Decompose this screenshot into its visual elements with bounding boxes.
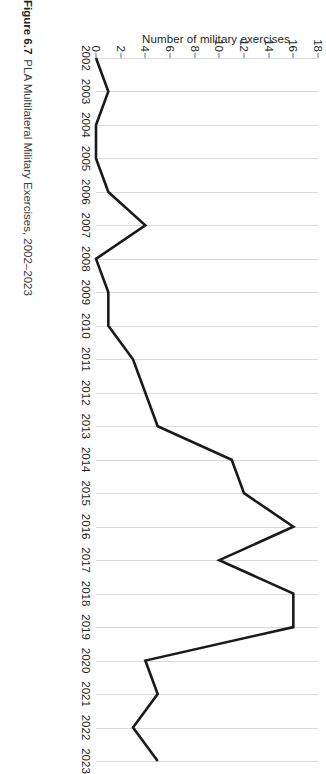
y-axis-tick-labels: 024681012141618 <box>96 34 318 58</box>
x-tick-label: 2005 <box>80 146 92 172</box>
x-tick-label: 2011 <box>80 347 92 372</box>
x-axis-tick-labels: 2002200320042005200620072008200920102011… <box>52 58 92 761</box>
x-tick-label: 2009 <box>80 280 92 306</box>
x-tick-label: 2013 <box>80 413 92 439</box>
x-tick-label: 2020 <box>80 648 92 674</box>
y-tick-label: 2 <box>115 46 127 52</box>
y-tick-label: 8 <box>189 46 201 52</box>
figure-caption: Figure 6.7PLA Multilateral Military Exer… <box>22 0 34 773</box>
y-tick-label: 16 <box>287 39 299 52</box>
gridline-2023 <box>96 761 318 762</box>
x-tick-label: 2022 <box>80 715 92 741</box>
x-tick-label: 2007 <box>80 213 92 239</box>
x-tick-label: 2016 <box>80 514 92 540</box>
y-tick-label: 18 <box>312 39 324 52</box>
x-tick-label: 2002 <box>80 45 92 71</box>
chart-plot-area: Number of military exercises 02468101214… <box>50 0 326 773</box>
x-tick-label: 2018 <box>80 581 92 607</box>
x-tick-label: 2017 <box>80 547 92 573</box>
y-tick-label: 14 <box>263 39 275 52</box>
line-series-exercises <box>96 58 293 761</box>
x-tick-label: 2008 <box>80 246 92 272</box>
y-tick-label: 4 <box>139 46 151 52</box>
x-tick-label: 2021 <box>80 681 92 707</box>
x-tick-label: 2010 <box>80 313 92 339</box>
data-series-line <box>96 58 318 761</box>
x-tick-label: 2003 <box>80 79 92 105</box>
figure-caption-text: PLA Multilateral Military Exercises, 200… <box>22 59 34 296</box>
x-tick-label: 2015 <box>80 480 92 506</box>
figure-caption-label: Figure 6.7 <box>22 0 34 54</box>
y-tick-label: 12 <box>238 39 250 52</box>
y-tick-label: 6 <box>164 46 176 52</box>
x-tick-label: 2012 <box>80 380 92 406</box>
y-tick-label: 10 <box>213 39 225 52</box>
x-tick-label: 2023 <box>80 748 92 774</box>
x-tick-label: 2019 <box>80 614 92 640</box>
x-tick-label: 2004 <box>80 112 92 138</box>
x-tick-label: 2014 <box>80 447 92 473</box>
x-tick-label: 2006 <box>80 179 92 205</box>
